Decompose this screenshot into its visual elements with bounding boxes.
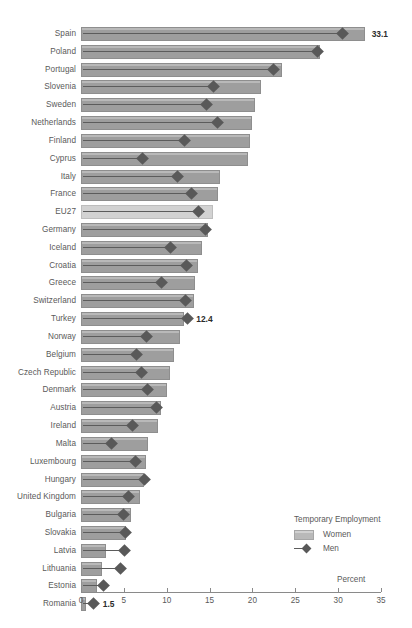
chart-row: EU27	[0, 205, 412, 219]
chart-row: Poland	[0, 45, 412, 59]
category-label-spain: Spain	[0, 27, 76, 41]
men-connector-line	[83, 193, 192, 194]
category-label-estonia: Estonia	[0, 579, 76, 593]
bar-women-turkey	[81, 312, 184, 326]
chart-legend: Temporary EmploymentWomenMen	[294, 515, 380, 555]
diamond-marker-men-lithuania	[114, 562, 127, 575]
chart-row: Hungary	[0, 473, 412, 487]
value-annotation: 33.1	[372, 27, 388, 41]
chart-row: Germany	[0, 223, 412, 237]
temporary-employment-chart: Spain33.1PolandPortugalSloveniaSwedenNet…	[0, 0, 412, 628]
men-connector-line	[83, 176, 178, 177]
plot-area: Spain33.1PolandPortugalSloveniaSwedenNet…	[0, 0, 412, 628]
men-connector-line	[83, 33, 342, 34]
men-connector-line	[83, 372, 142, 373]
x-axis-title: Percent	[337, 575, 365, 584]
men-connector-line	[83, 158, 143, 159]
legend-item-men[interactable]: Men	[294, 542, 380, 555]
category-label-slovenia: Slovenia	[0, 80, 76, 94]
chart-row: Sweden	[0, 98, 412, 112]
legend-label: Women	[323, 530, 351, 539]
category-label-luxembourg: Luxembourg	[0, 455, 76, 469]
x-axis-tick-label: 10	[155, 596, 179, 605]
bar-women-finland	[81, 134, 250, 148]
x-axis-tick	[124, 588, 125, 592]
bar-women-slovenia	[81, 80, 261, 94]
bar-women-lithuania	[81, 562, 102, 576]
x-axis-tick-label: 35	[369, 596, 393, 605]
men-connector-line	[83, 122, 217, 123]
men-connector-line	[83, 229, 205, 230]
category-label-cyprus: Cyprus	[0, 152, 76, 166]
chart-row: Austria	[0, 401, 412, 415]
category-label-switzerland: Switzerland	[0, 294, 76, 308]
men-connector-line	[83, 407, 156, 408]
x-axis-tick	[295, 588, 296, 592]
chart-row: Belgium	[0, 348, 412, 362]
bar-women-france	[81, 187, 218, 201]
legend-title: Temporary Employment	[294, 515, 380, 524]
chart-row: Croatia	[0, 259, 412, 273]
chart-row: Spain33.1	[0, 27, 412, 41]
bar-women-belgium	[81, 348, 174, 362]
category-label-denmark: Denmark	[0, 383, 76, 397]
diamond-marker-men-latvia	[118, 544, 131, 557]
category-label-finland: Finland	[0, 134, 76, 148]
men-connector-line	[83, 211, 198, 212]
category-label-germany: Germany	[0, 223, 76, 237]
chart-row: Netherlands	[0, 116, 412, 130]
category-label-belgium: Belgium	[0, 348, 76, 362]
chart-row: Czech Republic	[0, 366, 412, 380]
bar-women-switzerland	[81, 294, 194, 308]
x-axis-line	[81, 592, 381, 593]
legend-item-women[interactable]: Women	[294, 528, 380, 541]
category-label-malta: Malta	[0, 437, 76, 451]
x-axis-tick	[167, 588, 168, 592]
chart-row: Portugal	[0, 63, 412, 77]
chart-row: Malta	[0, 437, 412, 451]
category-label-czech-republic: Czech Republic	[0, 366, 76, 380]
x-axis-tick	[338, 588, 339, 592]
men-connector-line	[83, 69, 273, 70]
men-connector-line	[83, 318, 187, 319]
men-connector-line	[83, 104, 206, 105]
chart-row: Iceland	[0, 241, 412, 255]
bar-women-hungary	[81, 473, 144, 487]
x-axis-tick-label: 25	[283, 596, 307, 605]
category-label-portugal: Portugal	[0, 63, 76, 77]
chart-row: Turkey12.4	[0, 312, 412, 326]
category-label-romania: Romania	[0, 597, 76, 611]
category-label-sweden: Sweden	[0, 98, 76, 112]
chart-row: Norway	[0, 330, 412, 344]
bar-women-portugal	[81, 63, 282, 77]
chart-row: Luxembourg	[0, 455, 412, 469]
bar-women-spain	[81, 27, 365, 41]
men-connector-line	[83, 336, 146, 337]
category-label-turkey: Turkey	[0, 312, 76, 326]
x-axis-tick-label: 0	[69, 596, 93, 605]
bar-women-denmark	[81, 383, 167, 397]
diamond-marker-men-estonia	[97, 580, 110, 593]
chart-row: United Kingdom	[0, 490, 412, 504]
category-label-austria: Austria	[0, 401, 76, 415]
x-axis-tick-label: 15	[198, 596, 222, 605]
category-label-latvia: Latvia	[0, 544, 76, 558]
legend-diamond-line-icon	[294, 544, 314, 554]
value-annotation: 12.4	[196, 312, 212, 326]
category-label-poland: Poland	[0, 45, 76, 59]
x-axis-tick-label: 20	[240, 596, 264, 605]
category-label-hungary: Hungary	[0, 473, 76, 487]
men-connector-line	[83, 300, 186, 301]
x-axis-tick	[252, 588, 253, 592]
men-connector-line	[83, 86, 213, 87]
category-label-bulgaria: Bulgaria	[0, 508, 76, 522]
men-connector-line	[83, 389, 148, 390]
chart-row: Finland	[0, 134, 412, 148]
chart-row: Lithuania	[0, 562, 412, 576]
x-axis-tick	[210, 588, 211, 592]
bar-women-norway	[81, 330, 180, 344]
x-axis-tick-label: 30	[326, 596, 350, 605]
bar-women-ireland	[81, 419, 158, 433]
category-label-croatia: Croatia	[0, 259, 76, 273]
chart-row: France	[0, 187, 412, 201]
